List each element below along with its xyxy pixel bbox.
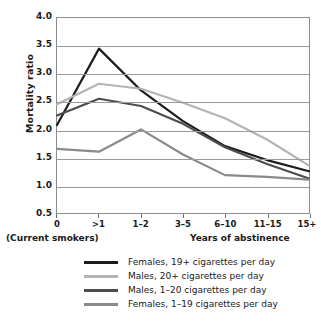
x-tick-mark xyxy=(98,214,99,218)
gridline xyxy=(57,46,309,47)
x-axis-tick-labels: 0>11–23–56–1011–1515+ xyxy=(56,214,310,232)
gridline xyxy=(57,102,309,103)
x-axis-title: Years of abstinence xyxy=(190,233,290,243)
legend-item: Males, 1–20 cigarettes per day xyxy=(84,283,278,297)
x-tick-label: 6–10 xyxy=(214,219,236,229)
x-tick-label: 3–5 xyxy=(175,219,191,229)
gridline xyxy=(57,187,309,188)
y-axis-tick-labels: 4.54.03.53.02.52.01.51.00.5 xyxy=(18,0,52,230)
legend-label: Females, 19+ cigarettes per day xyxy=(128,258,275,267)
legend-color-swatch xyxy=(84,261,118,264)
y-tick-label: 3.0 xyxy=(22,68,52,77)
legend-label: Females, 1–19 cigarettes per day xyxy=(128,300,278,309)
x-tick-mark xyxy=(56,214,57,218)
series-line xyxy=(57,99,309,179)
x-tick-label: 11–15 xyxy=(254,219,282,229)
x-tick-mark xyxy=(183,214,184,218)
legend-color-swatch xyxy=(84,289,118,292)
x-tick-mark xyxy=(268,214,269,218)
series-lines xyxy=(57,18,309,213)
gridline xyxy=(57,74,309,75)
series-line xyxy=(57,49,309,172)
legend-item: Females, 19+ cigarettes per day xyxy=(84,255,278,269)
legend-label: Males, 20+ cigarettes per day xyxy=(128,272,264,281)
series-line xyxy=(57,129,309,179)
y-tick-label: 2.0 xyxy=(22,125,52,134)
current-smokers-caption: (Current smokers) xyxy=(6,233,99,243)
y-tick-label: 2.5 xyxy=(22,96,52,105)
y-tick-label: 3.5 xyxy=(22,40,52,49)
y-tick-label: 1.0 xyxy=(22,181,52,190)
x-tick-label: 15+ xyxy=(298,219,317,229)
x-tick-label: 0 xyxy=(54,219,60,229)
y-tick-label: 0.5 xyxy=(22,209,52,218)
gridline xyxy=(57,159,309,160)
x-tick-label: 1–2 xyxy=(133,219,149,229)
y-tick-label: 4.0 xyxy=(22,12,52,21)
legend-color-swatch xyxy=(84,303,118,306)
x-tick-label: >1 xyxy=(92,219,105,229)
x-tick-mark xyxy=(141,214,142,218)
y-tick-label: 1.5 xyxy=(22,153,52,162)
legend-color-swatch xyxy=(84,275,118,278)
x-tick-mark xyxy=(310,214,311,218)
mortality-ratio-line-chart: Mortality ratio 4.54.03.53.02.52.01.51.0… xyxy=(0,0,321,326)
legend-item: Males, 20+ cigarettes per day xyxy=(84,269,278,283)
plot-area xyxy=(56,17,310,214)
gridline xyxy=(57,131,309,132)
x-tick-mark xyxy=(225,214,226,218)
legend-label: Males, 1–20 cigarettes per day xyxy=(128,286,267,295)
legend-item: Females, 1–19 cigarettes per day xyxy=(84,297,278,311)
chart-legend: Females, 19+ cigarettes per dayMales, 20… xyxy=(84,255,278,311)
